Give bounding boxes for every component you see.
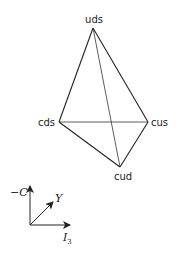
- edge-uds-cus: [93, 28, 148, 122]
- edge-uds-cds: [59, 28, 93, 122]
- vertex-label-cus: cus: [151, 117, 168, 128]
- vertex-label-cds: cds: [38, 117, 55, 128]
- coordinate-axes: [30, 186, 70, 225]
- edge-uds-cud: [93, 28, 120, 167]
- tetrahedron-diagram: uds cds cus cud −C Y I3: [0, 0, 182, 254]
- axis-label-y: Y: [55, 192, 64, 205]
- vertex-label-cud: cud: [114, 171, 132, 182]
- axis-label-i3: I3: [62, 231, 72, 246]
- axis-label-minus-c: −C: [10, 186, 28, 199]
- tetrahedron-edges: [59, 28, 148, 167]
- edge-cus-cud: [120, 122, 148, 167]
- vertex-label-uds: uds: [85, 14, 103, 25]
- axis-label-i3-subscript: 3: [67, 238, 71, 246]
- axis-diagonal-arrow: [30, 202, 53, 225]
- edge-cds-cud: [59, 122, 120, 167]
